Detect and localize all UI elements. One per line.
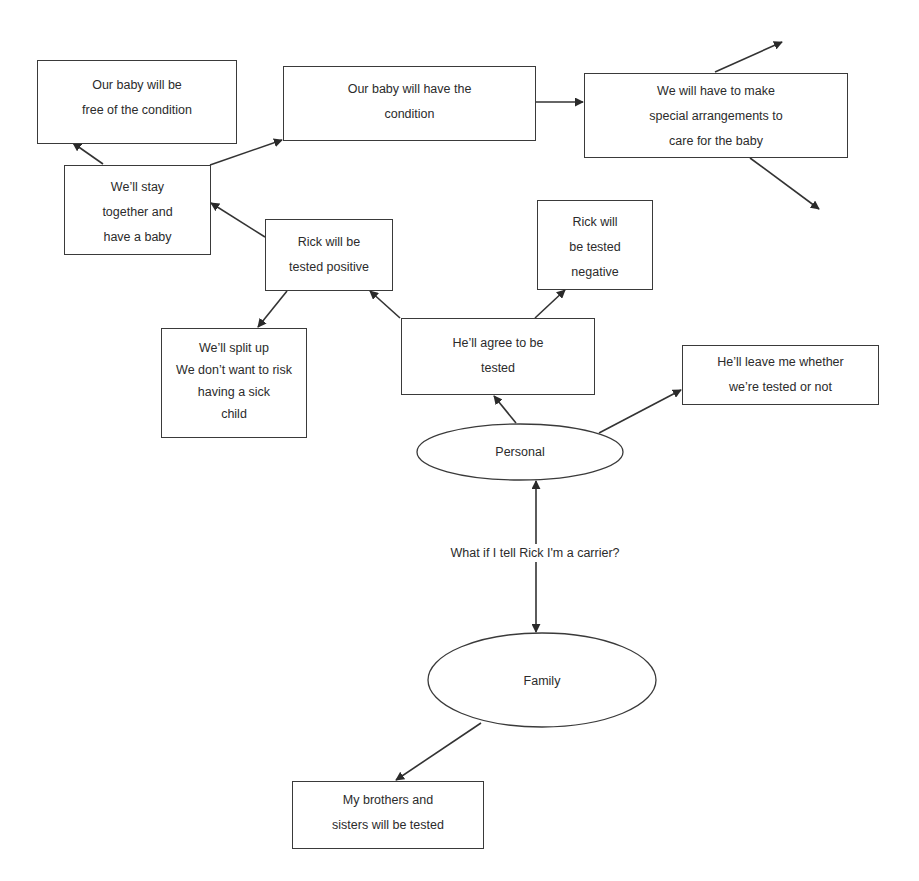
node-text-line: Our baby will have the	[348, 77, 472, 102]
node-text-line: We’ll stay	[111, 175, 164, 200]
node-text-line: We’ll split up	[199, 337, 269, 359]
personal-label: Personal	[495, 445, 544, 459]
family-label: Family	[524, 674, 561, 688]
node-text-line: Rick will	[572, 210, 617, 235]
node-stay-together: We’ll stay together and have a baby	[64, 165, 211, 255]
node-text-line: together and	[102, 200, 172, 225]
node-tested-positive: Rick will be tested positive	[265, 219, 393, 291]
node-text-line: We don’t want to risk	[176, 359, 292, 381]
node-text-line: have a baby	[103, 225, 171, 250]
node-split-up: We’ll split up We don’t want to risk hav…	[161, 328, 307, 438]
node-agree-tested: He’ll agree to be tested	[401, 318, 595, 395]
arrow-personal-to-leave	[599, 390, 681, 433]
node-text-line: child	[221, 403, 247, 425]
node-tested-negative: Rick will be tested negative	[537, 200, 653, 290]
arrow-special-up-right	[715, 42, 782, 72]
node-text-line: having a sick	[198, 381, 270, 403]
node-text-line: care for the baby	[669, 129, 763, 154]
node-baby-free: Our baby will be free of the condition	[37, 60, 237, 144]
node-baby-has-condition: Our baby will have the condition	[283, 66, 536, 141]
arrow-family-to-siblings	[396, 723, 481, 780]
node-text-line: free of the condition	[82, 98, 192, 123]
node-text-line: condition	[384, 102, 434, 127]
node-text-line: He’ll leave me whether	[717, 350, 843, 375]
node-text-line: He’ll agree to be	[452, 331, 543, 356]
node-special-arrangements: We will have to make special arrangement…	[584, 73, 848, 158]
node-text-line: Our baby will be	[92, 73, 182, 98]
node-text-line: Rick will be	[298, 230, 361, 255]
arrow-positive-to-stay	[211, 203, 265, 237]
node-leave-me: He’ll leave me whether we’re tested or n…	[682, 345, 879, 405]
node-text-line: special arrangements to	[649, 104, 782, 129]
arrow-agree-to-positive	[370, 291, 400, 318]
arrow-special-down-right	[750, 158, 819, 209]
node-text-line: sisters will be tested	[332, 813, 444, 838]
node-text-line: My brothers and	[343, 788, 433, 813]
arrow-stay-to-free	[73, 143, 103, 164]
node-siblings-tested: My brothers and sisters will be tested	[292, 781, 484, 849]
arrow-positive-to-split	[258, 291, 287, 327]
node-text-line: tested positive	[289, 255, 369, 280]
arrow-personal-to-agree	[494, 396, 516, 423]
node-text-line: tested	[481, 356, 515, 381]
node-text-line: negative	[571, 260, 618, 285]
node-text-line: be tested	[569, 235, 620, 260]
node-text-line: we’re tested or not	[729, 375, 832, 400]
central-question-label: What if I tell Rick I'm a carrier?	[447, 544, 622, 562]
arrow-agree-to-negative	[535, 290, 565, 318]
node-text-line: We will have to make	[657, 79, 775, 104]
